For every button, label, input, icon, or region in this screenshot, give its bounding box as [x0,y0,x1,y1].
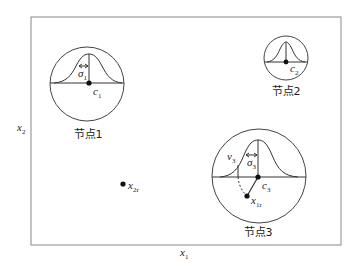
node-1-gaussian-curve [54,54,122,83]
node-1-sigma-label: σ1 [78,67,87,82]
node-1-label: 节点1 [74,128,103,141]
node-2-label: 节点2 [272,85,301,98]
node-3-center-label: c3 [262,179,271,194]
x2-axis-label: x2 [16,121,26,136]
node-1: σ1 c1 节点1 [50,47,124,141]
point-x2r: x2r [120,179,139,194]
node-3-dashed-arc [238,177,247,196]
point-x2r-dot [120,181,125,186]
node-1-center-label: c1 [93,85,102,100]
node-3-label: 节点3 [244,226,273,239]
point-x2r-label: x2r [127,179,139,194]
point-x1r-dot [244,193,249,198]
node-3-center-dot [255,174,260,179]
node-2: c2 节点2 [264,36,308,98]
node-2-center-label: c2 [290,62,299,77]
node-2-center-dot [284,60,289,65]
node-3-nu-label: v3 [227,150,236,165]
point-x1r-label: x1r [250,194,262,209]
node-3: v3 σ3 c3 x1r 节点3 [212,129,306,239]
node-3-sigma-label: σ3 [247,156,256,171]
node-1-center-dot [86,80,91,85]
rbf-node-diagram: x1 x2 σ1 c1 节点1 c2 节点2 x2r [0,0,357,268]
x1-axis-label: x1 [179,246,189,261]
